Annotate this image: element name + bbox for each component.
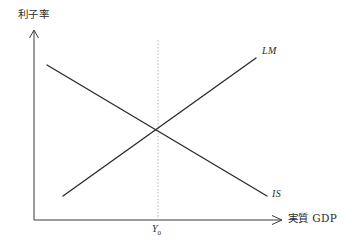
- lm-curve-label: LM: [262, 46, 277, 56]
- is-curve: [47, 65, 267, 196]
- is-lm-diagram: 利子率 実質 GDP LM IS Y0: [0, 0, 352, 248]
- y0-subscript: 0: [158, 229, 162, 237]
- plot-canvas: [0, 0, 352, 248]
- is-curve-label: IS: [272, 189, 281, 199]
- y-axis-label: 利子率: [18, 9, 49, 20]
- y0-tick-label: Y0: [152, 224, 161, 237]
- x-axis-label: 実質 GDP: [288, 213, 337, 224]
- lm-curve: [63, 58, 256, 196]
